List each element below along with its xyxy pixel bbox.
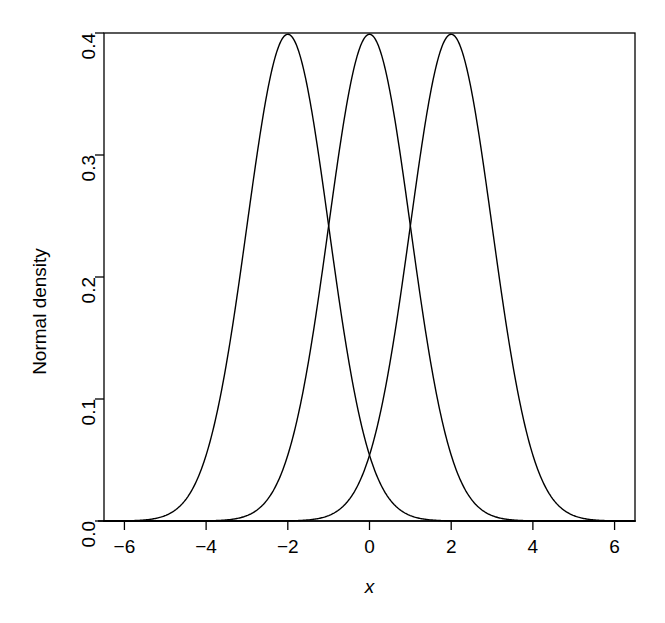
x-tick-label: −4 [195, 536, 217, 558]
y-tick-label: 0.1 [0, 388, 89, 410]
y-tick-label-text: 0.1 [78, 399, 100, 425]
y-tick-label: 0.3 [0, 144, 89, 166]
y-tick-label-text: 0.3 [78, 155, 100, 181]
chart-page: Normal density x −6−4−20246 0.00.10.20.3… [0, 0, 665, 623]
y-tick-label: 0.0 [0, 510, 89, 532]
x-tick-label: 6 [609, 536, 620, 558]
x-axis-title: x [104, 576, 635, 598]
x-tick-label: −6 [114, 536, 136, 558]
y-tick-label-text: 0.0 [78, 521, 100, 547]
y-tick-label-text: 0.4 [78, 33, 100, 59]
x-tick-label: 2 [446, 536, 457, 558]
x-tick-label: −2 [277, 536, 299, 558]
y-tick-label: 0.4 [0, 22, 89, 44]
x-tick-label: 4 [528, 536, 539, 558]
y-tick-label-text: 0.2 [78, 277, 100, 303]
x-tick-label: 0 [364, 536, 375, 558]
y-tick-label: 0.2 [0, 266, 89, 288]
